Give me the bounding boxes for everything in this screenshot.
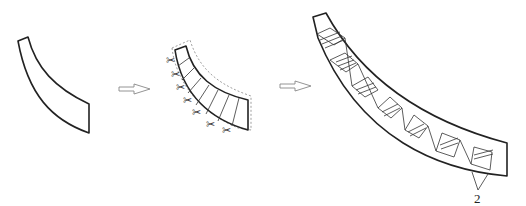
callout-2: 2 (472, 172, 488, 206)
cut-lines (178, 58, 239, 126)
scissors-icon: ✂ (222, 124, 231, 136)
arrow-2-icon (280, 81, 311, 91)
scissors-icon: ✂ (171, 68, 180, 80)
scissors-icon: ✂ (206, 118, 215, 130)
arrow-1-icon (119, 84, 150, 94)
stage-2-cut-strip: ✂ ✂ ✂ ✂ ✂ ✂ ✂ (166, 40, 251, 136)
scissors-icon: ✂ (192, 106, 201, 118)
scissors-icon: ✂ (176, 81, 185, 93)
scissors-icon: ✂ (166, 54, 175, 66)
scissors-icon: ✂ (183, 94, 192, 106)
scissors-icons: ✂ ✂ ✂ ✂ ✂ ✂ ✂ (166, 54, 231, 136)
stage-3-assembled-arc: 2 (313, 13, 507, 206)
stage-1-curved-strip (18, 37, 89, 133)
callout-label: 2 (474, 191, 481, 206)
process-diagram: ✂ ✂ ✂ ✂ ✂ ✂ ✂ (0, 0, 526, 206)
